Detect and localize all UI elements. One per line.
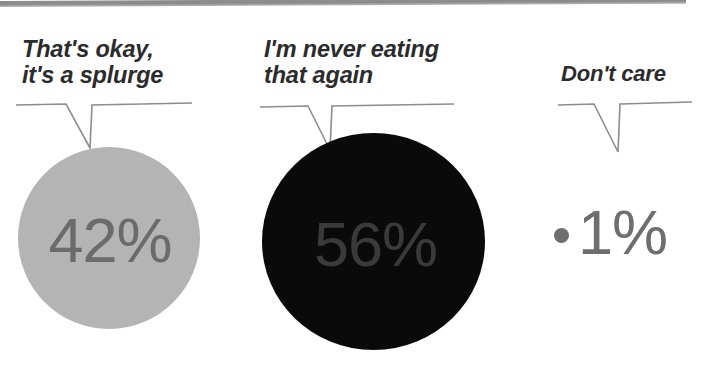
infographic-canvas: That's okay, it's a splurge 42% I'm neve…	[0, 0, 725, 373]
proportional-circle-splurge: 42%	[18, 147, 200, 329]
callout-label-never-again: I'm never eating that again	[264, 36, 439, 89]
leader-line-dont-care	[556, 96, 696, 158]
proportional-circle-never-again: 56%	[262, 133, 485, 350]
proportional-circle-dont-care	[554, 228, 569, 243]
value-label-never-again: 56%	[314, 208, 437, 280]
callout-label-dont-care: Don't care	[561, 62, 666, 87]
value-label-splurge: 42%	[48, 204, 171, 276]
callout-label-splurge: That's okay, it's a splurge	[22, 36, 163, 89]
value-label-dont-care: 1%	[578, 196, 667, 268]
top-divider-rule	[0, 0, 686, 7]
